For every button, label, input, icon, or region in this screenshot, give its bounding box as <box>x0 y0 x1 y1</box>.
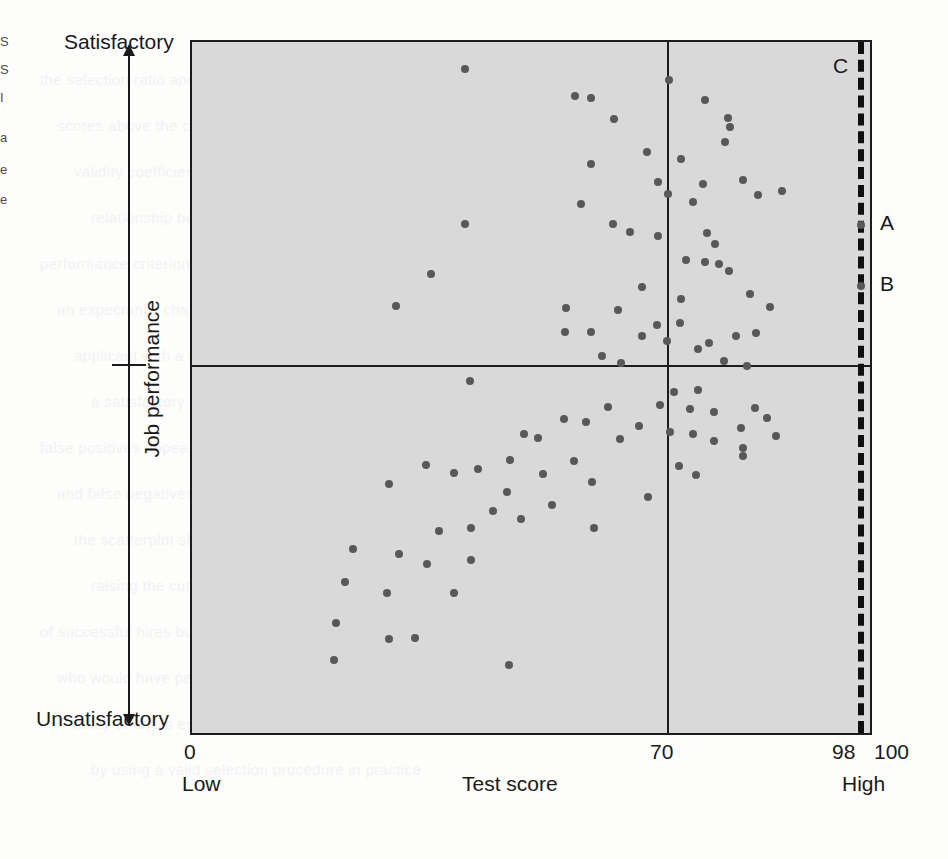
scatter-plot-area: C <box>190 40 872 735</box>
x-axis-left-endpoint-label: Low <box>182 772 221 796</box>
y-axis-bottom-label: Unsatisfactory <box>36 707 169 731</box>
data-point <box>705 339 713 347</box>
data-point <box>743 362 751 370</box>
annotation-C-label: C <box>833 54 848 78</box>
data-point <box>665 76 673 84</box>
data-point <box>772 432 780 440</box>
margin-fragment-3: a <box>0 130 7 145</box>
data-point <box>675 462 683 470</box>
data-point <box>466 377 474 385</box>
data-point <box>724 114 732 122</box>
y-axis-top-label: Satisfactory <box>64 30 174 54</box>
data-point <box>701 258 709 266</box>
data-point <box>686 405 694 413</box>
data-point <box>751 404 759 412</box>
data-point <box>349 545 357 553</box>
data-point <box>644 493 652 501</box>
data-point <box>677 295 685 303</box>
data-point <box>638 283 646 291</box>
data-point <box>711 240 719 248</box>
data-point <box>616 435 624 443</box>
margin-fragment-4: e <box>0 162 7 177</box>
data-point <box>699 180 707 188</box>
data-point <box>754 191 762 199</box>
data-point <box>763 414 771 422</box>
data-point <box>752 329 760 337</box>
data-point <box>330 656 338 664</box>
data-point <box>587 94 595 102</box>
data-point <box>676 319 684 327</box>
data-point <box>732 332 740 340</box>
x-axis-right-endpoint-label: High <box>842 772 885 796</box>
data-point <box>560 415 568 423</box>
data-point <box>570 457 578 465</box>
data-point <box>435 527 443 535</box>
data-point <box>423 560 431 568</box>
data-point <box>689 198 697 206</box>
cutoff-score-line-70 <box>667 42 669 733</box>
data-point <box>643 148 651 156</box>
data-point <box>746 290 754 298</box>
data-point <box>710 437 718 445</box>
data-point <box>609 220 617 228</box>
data-point <box>694 386 702 394</box>
data-point <box>450 589 458 597</box>
performance-midline <box>192 365 870 367</box>
margin-fragment-2: I <box>0 90 4 105</box>
data-point <box>461 65 469 73</box>
data-point <box>450 469 458 477</box>
data-point <box>517 515 525 523</box>
data-point <box>598 352 606 360</box>
data-point <box>385 480 393 488</box>
data-point <box>654 178 662 186</box>
data-point <box>520 430 528 438</box>
data-point <box>332 619 340 627</box>
y-axis-title: Job performance <box>140 300 164 458</box>
data-point <box>692 471 700 479</box>
data-point <box>614 306 622 314</box>
margin-fragment-1: S <box>0 62 9 77</box>
data-point <box>392 302 400 310</box>
data-point <box>577 200 585 208</box>
data-point <box>427 270 435 278</box>
selection-cutoff-line-98 <box>858 42 864 733</box>
margin-fragment-0: S <box>0 34 9 49</box>
data-point <box>720 357 728 365</box>
data-point <box>385 635 393 643</box>
data-point <box>703 229 711 237</box>
data-point <box>721 138 729 146</box>
ghost-text-line: by using a valid selection procedure in … <box>91 750 421 790</box>
data-point <box>725 267 733 275</box>
data-point <box>635 422 643 430</box>
data-point <box>778 187 786 195</box>
data-point <box>689 430 697 438</box>
data-point <box>395 550 403 558</box>
data-point <box>561 328 569 336</box>
data-point <box>571 92 579 100</box>
data-point <box>739 452 747 460</box>
x-tick-label-100: 100 <box>874 740 909 764</box>
data-point <box>682 256 690 264</box>
data-point <box>739 176 747 184</box>
data-point <box>422 461 430 469</box>
data-point <box>656 401 664 409</box>
x-axis-title: Test score <box>462 772 558 796</box>
data-point <box>701 96 709 104</box>
data-point <box>626 228 634 236</box>
data-point <box>503 488 511 496</box>
data-point <box>548 501 556 509</box>
data-point <box>461 220 469 228</box>
figure-page: the selection ratio and the base rate of… <box>0 0 948 859</box>
x-tick-label-98: 98 <box>832 740 855 764</box>
data-point <box>505 661 513 669</box>
margin-fragment-5: e <box>0 192 7 207</box>
data-point <box>539 470 547 478</box>
data-point <box>588 478 596 486</box>
data-point <box>467 556 475 564</box>
data-point <box>715 260 723 268</box>
annotation-A-label: A <box>880 211 894 235</box>
data-point <box>666 428 674 436</box>
data-point <box>694 345 702 353</box>
data-point <box>766 303 774 311</box>
data-point <box>534 434 542 442</box>
